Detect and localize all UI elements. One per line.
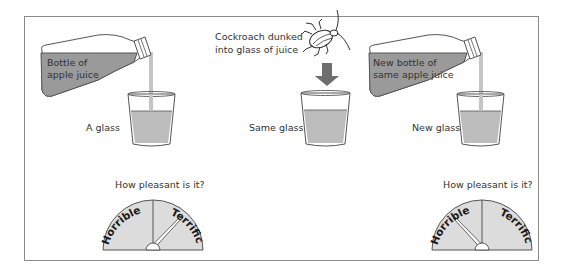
bottle-label-line2: apple juice — [47, 69, 99, 80]
gauge-question: How pleasant is it? — [115, 179, 205, 190]
juice-disgust-diagram: Bottle of apple juice A glass How pleasa… — [0, 0, 562, 274]
glass-label: A glass — [86, 122, 120, 133]
bottle-label-line1: Bottle of — [47, 57, 88, 68]
glass-label: New glass — [412, 122, 460, 133]
diagram-stage: Bottle of apple juice A glass How pleasa… — [0, 0, 562, 274]
bottle-label-line1: New bottle of — [373, 57, 437, 68]
caption-line1: Cockroach dunked — [215, 31, 303, 42]
caption-line2: into glass of juice — [215, 44, 298, 55]
glass-label: Same glass — [249, 122, 303, 133]
bottle-label-line2: same apple juice — [373, 69, 454, 80]
gauge-question: How pleasant is it? — [443, 179, 533, 190]
